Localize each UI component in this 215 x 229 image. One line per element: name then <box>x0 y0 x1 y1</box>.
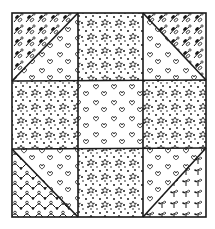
block-top-center <box>78 13 143 80</box>
block-middle-left <box>12 81 78 149</box>
block-bottom-center <box>78 148 143 217</box>
block-bottom-left <box>12 149 78 217</box>
quilt-block-drawing <box>0 0 215 229</box>
block-top-right <box>143 13 206 80</box>
block-bottom-right <box>143 148 206 217</box>
block-middle-right <box>143 80 206 148</box>
block-center <box>78 80 143 148</box>
block-top-left <box>12 13 78 81</box>
